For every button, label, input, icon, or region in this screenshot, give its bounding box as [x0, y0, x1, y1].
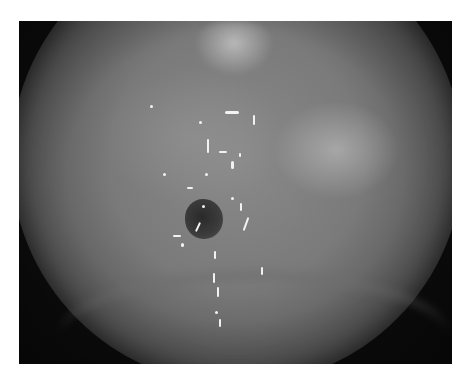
endoscopic-photo — [19, 21, 452, 364]
lens-vignette — [19, 21, 452, 364]
